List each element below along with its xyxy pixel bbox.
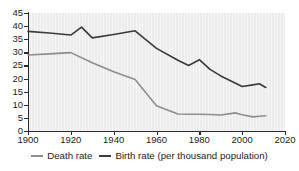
x-axis-tick — [242, 131, 243, 135]
x-axis-tick-label: 2000 — [222, 134, 262, 145]
legend-item-death-rate: Death rate — [31, 150, 92, 161]
x-axis-tick-label: 2020 — [265, 134, 299, 145]
legend-swatch-birth-rate — [99, 155, 111, 157]
x-axis-tick — [199, 131, 200, 135]
y-axis-tick-label: 20 — [1, 74, 23, 84]
y-axis-labels: 051015202530354045 — [0, 0, 23, 140]
x-axis-tick-label: 1960 — [137, 134, 177, 145]
x-axis-tick-label: 1940 — [94, 134, 134, 145]
y-axis-tick-label: 25 — [1, 60, 23, 70]
y-axis-tick-label: 35 — [1, 34, 23, 44]
series-line-birth-rate — [28, 27, 266, 87]
x-axis-tick — [71, 131, 72, 135]
legend-label-death-rate: Death rate — [47, 150, 92, 161]
legend-label-birth-rate: Birth rate (per thousand population) — [115, 150, 267, 161]
legend-item-birth-rate: Birth rate (per thousand population) — [99, 150, 267, 161]
x-axis-tick-label: 1900 — [8, 134, 48, 145]
y-axis-tick-label: 10 — [1, 100, 23, 110]
y-axis-tick-label: 40 — [1, 21, 23, 31]
line-chart: 051015202530354045 190019201940196019802… — [0, 0, 299, 171]
y-axis-tick-label: 5 — [1, 113, 23, 123]
chart-legend: Death rate Birth rate (per thousand popu… — [0, 150, 299, 161]
legend-swatch-death-rate — [31, 155, 43, 157]
y-axis-tick-label: 45 — [1, 8, 23, 18]
y-axis-tick-label: 30 — [1, 47, 23, 57]
series-line-death-rate — [28, 53, 266, 117]
y-axis-tick-label: 15 — [1, 87, 23, 97]
x-axis-tick — [157, 131, 158, 135]
x-axis-tick — [285, 131, 286, 135]
x-axis-tick-label: 1980 — [179, 134, 219, 145]
series-lines — [28, 13, 285, 131]
x-axis-tick — [28, 131, 29, 135]
x-axis-tick-label: 1920 — [51, 134, 91, 145]
x-axis-tick — [114, 131, 115, 135]
